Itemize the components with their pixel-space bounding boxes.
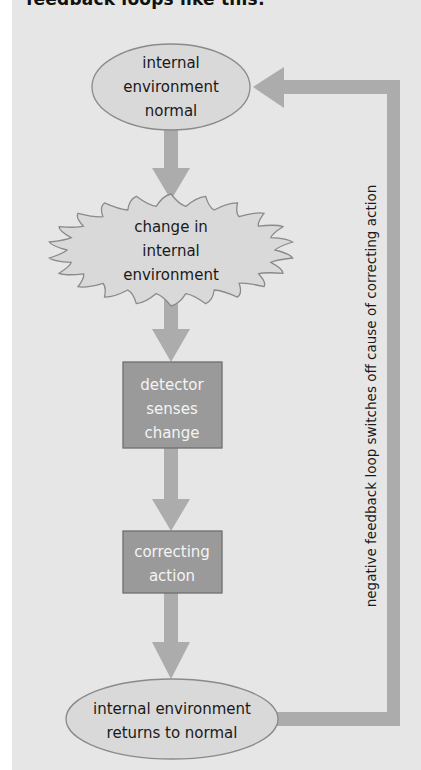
node-line: senses — [146, 400, 198, 418]
node-internal-environment-returns-to-normal: internal environment returns to normal — [66, 679, 278, 759]
svg-text:internal: internal — [142, 54, 200, 72]
svg-text:returns to normal: returns to normal — [107, 724, 238, 742]
node-line: change — [144, 424, 199, 442]
node-line: environment — [123, 266, 219, 284]
node-line: normal — [145, 102, 198, 120]
svg-text:internal environment: internal environment — [93, 700, 251, 718]
svg-text:senses: senses — [146, 400, 198, 418]
node-line: detector — [140, 376, 204, 394]
arrow-detector-to-correcting — [152, 448, 190, 531]
node-line: change in — [134, 218, 208, 236]
svg-text:internal: internal — [142, 242, 200, 260]
arrow-correcting-to-returns — [152, 593, 190, 679]
node-detector-senses-change: detector senses change — [123, 362, 222, 448]
node-line: returns to normal — [107, 724, 238, 742]
node-change-in-internal-environment: change in internal environment — [49, 194, 292, 306]
svg-text:detector: detector — [140, 376, 204, 394]
node-line: internal — [142, 242, 200, 260]
arrow-change-to-detector — [152, 300, 190, 362]
node-line: correcting — [134, 543, 210, 561]
node-correcting-action: correcting action — [123, 531, 222, 593]
svg-text:action: action — [149, 567, 195, 585]
svg-text:change in: change in — [134, 218, 208, 236]
node-internal-environment-normal: internal environment normal — [92, 44, 250, 130]
arrow-normal-to-change — [152, 130, 190, 200]
svg-text:environment: environment — [123, 266, 219, 284]
feedback-loop-label: negative feedback loop switches off caus… — [363, 185, 379, 608]
node-line: action — [149, 567, 195, 585]
svg-text:environment: environment — [123, 78, 219, 96]
svg-text:correcting: correcting — [134, 543, 210, 561]
node-line: internal environment — [93, 700, 251, 718]
svg-text:normal: normal — [145, 102, 198, 120]
feedback-loop-diagram: internal environment normal change in in… — [0, 0, 421, 770]
svg-text:change: change — [144, 424, 199, 442]
node-line: environment — [123, 78, 219, 96]
node-line: internal — [142, 54, 200, 72]
